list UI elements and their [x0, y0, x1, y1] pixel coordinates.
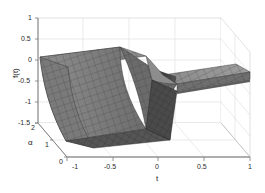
t-tick-label-0: -1	[72, 163, 78, 170]
z-tick-label-0: 1	[28, 14, 32, 21]
z-tick-label-1: 0.5	[21, 35, 31, 42]
z-tick-label-5: -1.5	[18, 119, 30, 126]
surface-plot-svg	[0, 0, 265, 193]
t-tick-label-4: 1	[248, 163, 252, 170]
z-tick-label-2: 0	[28, 56, 32, 63]
z-tick-label-4: -1	[25, 98, 31, 105]
figure-canvas: 1 0.5 0 -0.5 -1 -1.5 f(t) 2 1 0 α -1 -0.…	[0, 0, 265, 193]
alpha-tick-label-1: 1	[45, 141, 49, 148]
alpha-tick-label-2: 2	[31, 124, 35, 131]
z-axis-title: f(t)	[12, 68, 20, 78]
alpha-axis-title: α	[28, 139, 33, 147]
t-axis-title: t	[156, 175, 158, 183]
t-tick-label-1: -0.5	[104, 163, 116, 170]
alpha-tick-label-0: 0	[59, 158, 63, 165]
t-tick-label-2: 0	[155, 163, 159, 170]
t-tick-label-3: 0.5	[197, 163, 207, 170]
z-tick-label-3: -0.5	[18, 77, 30, 84]
